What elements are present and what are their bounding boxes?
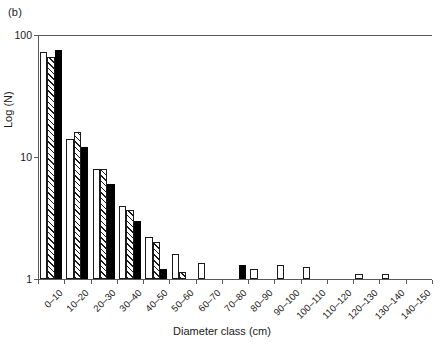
x-tick-mark <box>274 280 275 284</box>
plot-area: 110100 0–1010–2020–3030–4040–5050–6060–7… <box>38 35 432 280</box>
bar <box>81 147 88 279</box>
bar <box>134 221 141 279</box>
x-tick-mark <box>327 280 328 284</box>
plot-top-rule <box>38 35 432 36</box>
x-axis-line <box>38 279 432 280</box>
x-tick-mark <box>406 280 407 284</box>
x-tick-label: 10–20 <box>64 287 91 314</box>
bar <box>239 265 246 279</box>
x-tick-mark <box>248 280 249 284</box>
bar <box>198 263 205 279</box>
bar <box>55 50 62 279</box>
bar <box>40 52 47 279</box>
x-tick-mark <box>169 280 170 284</box>
x-tick-mark <box>353 280 354 284</box>
y-axis-title: Log (N) <box>2 91 14 128</box>
bar <box>355 274 362 279</box>
bar <box>93 169 100 279</box>
x-tick-label: 30–40 <box>117 287 144 314</box>
bar <box>303 267 310 279</box>
panel-label: (b) <box>8 6 22 18</box>
bar <box>277 265 284 279</box>
x-tick-label: 70–80 <box>222 287 249 314</box>
x-tick-mark <box>432 280 433 284</box>
bar <box>47 57 54 279</box>
y-tick-label: 10 <box>20 151 32 163</box>
x-tick-mark <box>379 280 380 284</box>
bar <box>66 139 73 279</box>
bar <box>74 132 81 279</box>
bar <box>119 206 126 279</box>
chart-figure: (b) 110100 0–1010–2020–3030–4040–5050–60… <box>0 0 444 347</box>
x-tick-label: 60–70 <box>196 287 223 314</box>
x-tick-mark <box>143 280 144 284</box>
x-tick-mark <box>117 280 118 284</box>
bar <box>107 184 114 279</box>
x-tick-mark <box>222 280 223 284</box>
bar <box>172 254 179 279</box>
x-tick-mark <box>38 280 39 284</box>
bar <box>179 272 186 279</box>
y-tick-label: 1 <box>26 273 32 285</box>
x-tick-label: 50–60 <box>169 287 196 314</box>
y-tick-mark <box>34 35 38 36</box>
x-tick-mark <box>91 280 92 284</box>
bar <box>126 210 133 279</box>
bar <box>250 269 257 279</box>
x-tick-mark <box>196 280 197 284</box>
y-tick-mark <box>34 157 38 158</box>
bar <box>160 269 167 279</box>
bar <box>153 242 160 279</box>
x-tick-mark <box>301 280 302 284</box>
x-tick-mark <box>64 280 65 284</box>
x-tick-label: 20–30 <box>91 287 118 314</box>
y-tick-label: 100 <box>14 29 32 41</box>
bar <box>145 237 152 279</box>
x-axis-title: Diameter class (cm) <box>0 325 444 337</box>
y-axis-line <box>38 35 39 280</box>
bar <box>100 169 107 279</box>
x-tick-label: 40–50 <box>143 287 170 314</box>
bar <box>382 274 389 279</box>
x-tick-label: 0–10 <box>42 287 65 310</box>
